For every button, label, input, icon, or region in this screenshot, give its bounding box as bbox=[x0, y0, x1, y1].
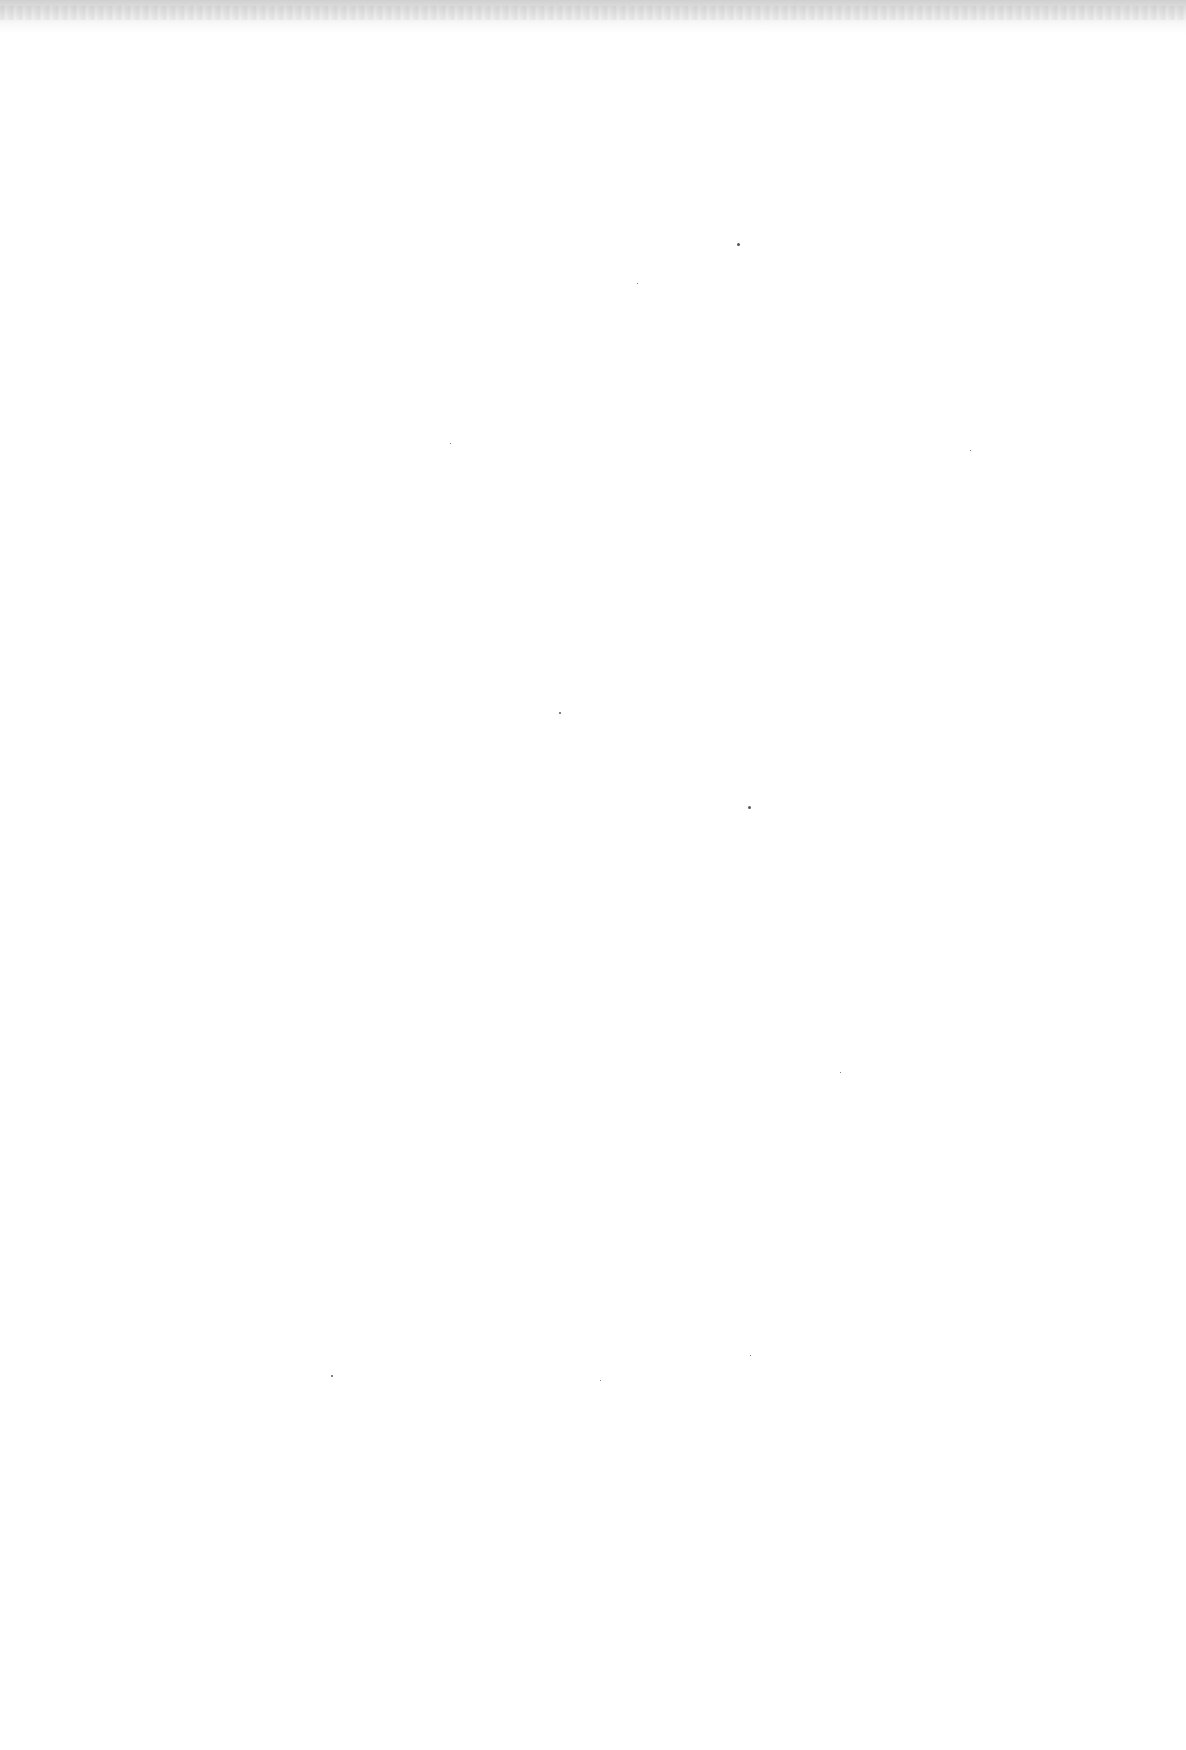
dust-speck bbox=[750, 1355, 751, 1356]
dust-speck bbox=[450, 443, 451, 444]
dust-speck bbox=[748, 806, 751, 809]
blank-document-page bbox=[0, 0, 1186, 1750]
dust-speck bbox=[737, 243, 740, 246]
show-through-text-bleed bbox=[0, 6, 1186, 20]
dust-speck bbox=[637, 283, 638, 284]
dust-speck bbox=[559, 712, 561, 714]
dust-speck bbox=[840, 1072, 841, 1073]
dust-speck bbox=[331, 1375, 333, 1377]
dust-speck bbox=[600, 1380, 601, 1381]
dust-speck bbox=[970, 450, 971, 451]
